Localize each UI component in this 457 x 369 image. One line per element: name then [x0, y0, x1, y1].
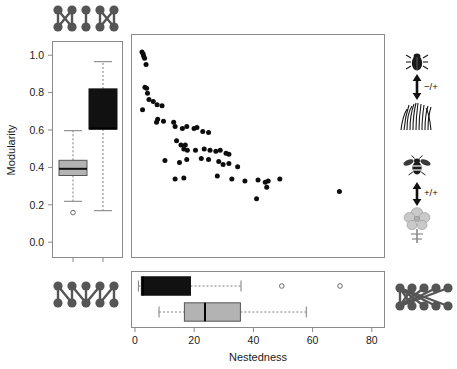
scatter-point	[174, 138, 179, 143]
scatter-point	[200, 129, 205, 134]
x-tick-label-60: 60	[307, 334, 319, 346]
y-tick-label-0.4: 0.4	[29, 161, 44, 173]
scatter-point	[185, 148, 190, 153]
scatter-point	[213, 149, 218, 154]
scatter-point	[144, 86, 149, 91]
scatter-point	[154, 120, 159, 125]
scatter-point	[215, 173, 220, 178]
x-tick-label-80: 80	[366, 334, 378, 346]
scatter-point	[208, 148, 213, 153]
scatter-point	[229, 177, 234, 182]
y-axis-title: Modularity	[5, 124, 17, 175]
scatter-point	[194, 125, 199, 130]
scatter-point	[162, 158, 167, 163]
scatter-point	[206, 130, 211, 135]
scatter-point	[161, 119, 166, 124]
scatter-point	[337, 189, 342, 194]
scatter-point	[140, 107, 145, 112]
scatter-point	[226, 152, 231, 157]
scatter-point	[206, 157, 211, 162]
figure-root: 1.0 0.8 0.6 0.4 0.2 0.0 Modularity	[0, 0, 457, 369]
scatter-point	[193, 148, 198, 153]
scatter-point	[146, 97, 151, 102]
y-tick-label-1.0: 1.0	[29, 49, 44, 61]
scatter-point	[202, 147, 207, 152]
scatter-point	[221, 162, 226, 167]
scatter-point	[173, 124, 178, 129]
scientific-figure: 1.0 0.8 0.6 0.4 0.2 0.0 Modularity	[0, 0, 457, 369]
scatter-point	[144, 62, 149, 67]
y-tick-label-0.8: 0.8	[29, 86, 44, 98]
x-tick-label-20: 20	[188, 334, 200, 346]
scatter-point	[256, 178, 261, 183]
scatter-point	[184, 157, 189, 162]
mutualistic-sign-label: +/+	[424, 187, 438, 198]
scatter-point	[160, 103, 165, 108]
scatter-panel	[132, 35, 385, 258]
scatter-point	[177, 160, 182, 165]
scatter-point	[235, 164, 240, 169]
scatter-point	[216, 159, 221, 164]
scatter-point	[178, 142, 183, 147]
x-axis-title: Nestedness	[229, 351, 288, 363]
scatter-point	[155, 102, 160, 107]
scatter-point	[264, 185, 269, 190]
scatter-point	[266, 179, 271, 184]
scatter-panel-frame	[132, 35, 385, 258]
scatter-point	[254, 196, 259, 201]
scatter-point	[145, 91, 150, 96]
y-tick-label-0.2: 0.2	[29, 199, 44, 211]
antagonistic-sign-label: −/+	[424, 81, 438, 92]
scatter-point	[173, 177, 178, 182]
scatter-point	[142, 56, 147, 61]
x-tick-label-0: 0	[132, 334, 138, 346]
scatter-point	[180, 126, 185, 131]
left-panel-frame	[53, 42, 123, 258]
scatter-point	[226, 161, 231, 166]
x-tick-label-40: 40	[248, 334, 260, 346]
scatter-point	[242, 179, 247, 184]
scatter-point	[199, 156, 204, 161]
y-tick-label-0.6: 0.6	[29, 124, 44, 136]
scatter-point	[184, 124, 189, 129]
scatter-point	[277, 177, 282, 182]
scatter-point	[218, 148, 223, 153]
y-tick-label-0.0: 0.0	[29, 236, 44, 248]
scatter-point	[181, 176, 186, 181]
